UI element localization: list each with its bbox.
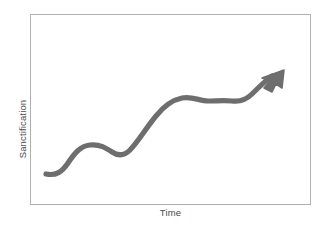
y-axis-label-container: Sanctification (14, 14, 30, 205)
plot-area-frame (30, 14, 311, 205)
x-axis-label: Time (30, 207, 311, 218)
y-axis-label: Sanctification (14, 13, 30, 234)
chart-figure: Sanctification Time (0, 0, 325, 233)
